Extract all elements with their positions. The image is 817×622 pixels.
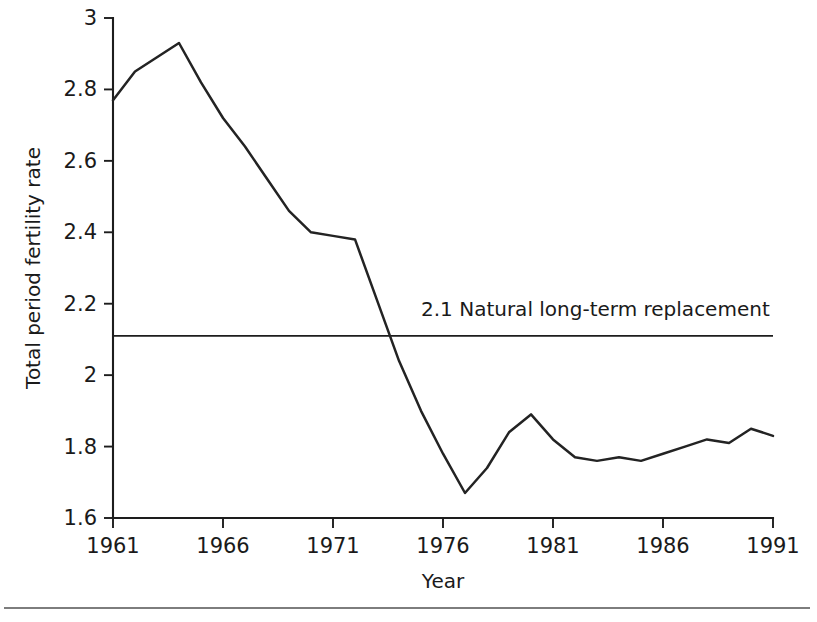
replacement-level-annotation: 2.1 Natural long-term replacement xyxy=(421,297,770,321)
x-tick-label: 1991 xyxy=(746,534,799,558)
x-tick-label: 1986 xyxy=(636,534,689,558)
data-line-series-0 xyxy=(113,43,773,493)
y-tick-label: 3 xyxy=(84,6,97,30)
y-tick-label: 2.2 xyxy=(64,292,97,316)
y-axis-title: Total period fertility rate xyxy=(21,147,45,390)
y-tick-label: 1.6 xyxy=(64,506,97,530)
x-axis: 1961196619711976198119861991 Year xyxy=(86,518,799,593)
y-tick-label: 2.4 xyxy=(64,220,97,244)
x-tick-label: 1981 xyxy=(526,534,579,558)
x-axis-title: Year xyxy=(421,569,465,593)
x-tick-label: 1976 xyxy=(416,534,469,558)
y-axis: 1.61.822.22.42.62.83 Total period fertil… xyxy=(21,6,113,530)
x-axis-ticks xyxy=(113,518,773,528)
y-tick-label: 2 xyxy=(84,363,97,387)
x-tick-label: 1966 xyxy=(196,534,249,558)
x-tick-label: 1961 xyxy=(86,534,139,558)
footer-divider-rule xyxy=(4,607,810,609)
x-axis-tick-labels: 1961196619711976198119861991 xyxy=(86,534,799,558)
data-series-group xyxy=(113,43,773,493)
y-tick-label: 2.8 xyxy=(64,77,97,101)
reference-line-labels: 2.1 Natural long-term replacement xyxy=(421,297,770,321)
y-axis-ticks xyxy=(104,18,113,518)
figure-container: 1.61.822.22.42.62.83 Total period fertil… xyxy=(0,0,817,622)
y-tick-label: 2.6 xyxy=(64,149,97,173)
y-tick-label: 1.8 xyxy=(64,435,97,459)
x-tick-label: 1971 xyxy=(306,534,359,558)
y-axis-tick-labels: 1.61.822.22.42.62.83 xyxy=(64,6,97,530)
fertility-rate-line-chart: 1.61.822.22.42.62.83 Total period fertil… xyxy=(0,0,817,622)
